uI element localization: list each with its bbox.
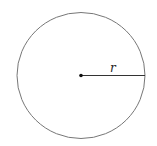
radius-label: r	[110, 61, 117, 75]
circle-diagram: r	[0, 0, 157, 146]
center-point	[79, 74, 83, 78]
